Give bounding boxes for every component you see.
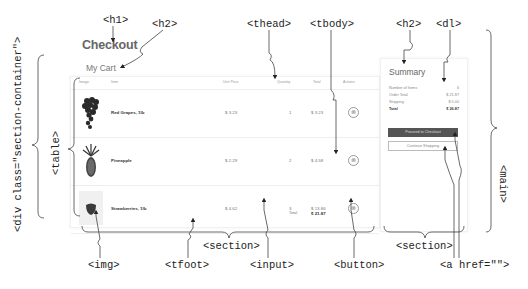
- annotation-table: <table>: [50, 131, 62, 175]
- summary-item: Order Total $ 21.87: [389, 93, 459, 97]
- unit-price: $ 3.23: [225, 110, 237, 115]
- table-row: Red Grapes, 1lb $ 3.23 1 $ 3.23 ⊗: [71, 90, 379, 138]
- strawberry-image: [79, 191, 103, 225]
- quantity-input[interactable]: 1: [289, 110, 291, 115]
- table-row: Strawberries, 1lb $ 4.62 3 $ 13.86 ⊗: [71, 186, 379, 234]
- annotation-main: <main>: [497, 165, 509, 203]
- annotation-button: <button>: [334, 259, 384, 271]
- annotation-img: <img>: [88, 259, 120, 271]
- header-total: Total: [313, 80, 321, 84]
- table-header: Image Item Unit Price Quantity Total Act…: [71, 77, 379, 90]
- footer-total: $ 21.87: [311, 211, 326, 216]
- annotation-tbody: <tbody>: [310, 18, 354, 30]
- header-image: Image: [79, 80, 89, 84]
- proceed-to-checkout-button[interactable]: Proceed to Checkout: [388, 128, 458, 137]
- item-name: Strawberries, 1lb: [111, 206, 146, 211]
- summary-value: $ 26.87: [446, 107, 459, 111]
- cart-table: Image Item Unit Price Quantity Total Act…: [70, 76, 380, 228]
- summary-value: $ 21.87: [446, 93, 459, 97]
- summary-item: Number of Items 6: [389, 86, 459, 90]
- annotation-h1: <h1>: [103, 14, 128, 26]
- annotation-thead: <thead>: [247, 18, 291, 30]
- table-row: Pineapple $ 2.29 2 $ 4.58 ⊗: [71, 138, 379, 186]
- summary-section: Summary Number of Items 6 Order Total $ …: [380, 58, 468, 232]
- cart-heading: My Cart: [86, 63, 116, 73]
- annotation-a: <a href="">: [440, 259, 509, 271]
- row-total: $ 3.23: [311, 110, 323, 115]
- header-unit-price: Unit Price: [223, 80, 239, 84]
- summary-label: Number of Items: [389, 86, 417, 90]
- pineapple-image: [79, 142, 103, 176]
- summary-value: 6: [457, 86, 459, 90]
- quantity-input[interactable]: 2: [289, 158, 291, 163]
- header-actions: Actions: [343, 80, 355, 84]
- summary-label: Total: [389, 107, 398, 111]
- summary-label: Order Total: [389, 93, 408, 97]
- annotation-h2-cart: <h2>: [152, 18, 177, 30]
- row-total: $ 4.58: [311, 158, 323, 163]
- footer-label: Total: [289, 211, 297, 215]
- summary-heading: Summary: [389, 67, 425, 77]
- annotation-tfoot: <tfoot>: [165, 259, 209, 271]
- unit-price: $ 2.29: [225, 158, 237, 163]
- continue-shopping-button[interactable]: Continue Shopping: [388, 141, 458, 151]
- annotation-section-cart: <section>: [203, 240, 260, 252]
- annotation-h2-summary: <h2>: [396, 18, 421, 30]
- grapes-image: [79, 95, 103, 129]
- annotation-section-summary: <section>: [396, 240, 453, 252]
- remove-item-button[interactable]: ⊗: [348, 155, 359, 166]
- summary-label: Shipping: [389, 100, 404, 104]
- summary-value: $ 5.00: [448, 100, 459, 104]
- item-name: Pineapple: [111, 158, 132, 163]
- annotation-section-container: <div class="section-container">: [12, 37, 24, 232]
- header-item: Item: [111, 80, 118, 84]
- item-name: Red Grapes, 1lb: [111, 110, 144, 115]
- summary-item: Total $ 26.87: [389, 107, 459, 111]
- summary-item: Shipping $ 5.00: [389, 100, 459, 104]
- remove-item-button[interactable]: ⊗: [348, 107, 359, 118]
- remove-item-button[interactable]: ⊗: [348, 203, 359, 214]
- page-title: Checkout: [82, 38, 137, 52]
- header-quantity: Quantity: [277, 80, 290, 84]
- annotation-dl: <dl>: [436, 18, 461, 30]
- annotation-input: <input>: [250, 259, 294, 271]
- unit-price: $ 4.62: [225, 206, 237, 211]
